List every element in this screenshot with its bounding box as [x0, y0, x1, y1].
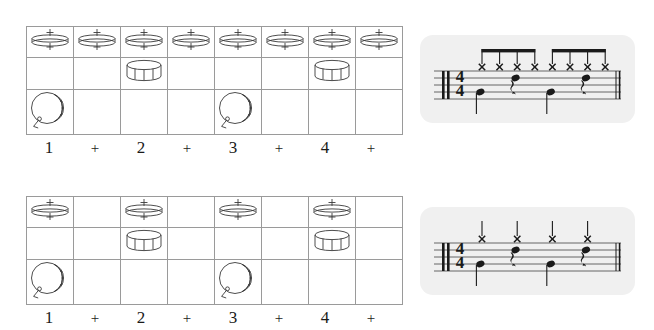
grid-row-bass [27, 90, 403, 135]
bass-drum-icon [217, 90, 259, 130]
grid-cell-snare-4a[interactable] [356, 228, 403, 260]
count-label: + [164, 137, 210, 159]
grid-cell-bass-2a[interactable] [168, 260, 215, 305]
grid-cell-snare-4[interactable] [309, 228, 356, 260]
grid-cell-snare-3[interactable] [215, 228, 262, 260]
hihat-cymbal-icon [122, 197, 166, 223]
grid-cell-hihat-2a[interactable] [168, 197, 215, 228]
grid-cell-hihat-4a[interactable] [356, 27, 403, 58]
grid-cell-snare-3a[interactable] [262, 228, 309, 260]
snare-drum-icon [124, 229, 164, 255]
hihat-cymbal-icon [263, 27, 307, 53]
grid-cell-bass-3a[interactable] [262, 90, 309, 135]
grid-cell-snare-3[interactable] [215, 58, 262, 90]
bass-drum-icon [29, 260, 71, 300]
count-row: 1 + 2 + 3 + 4 + [26, 137, 394, 159]
grid-cell-hihat-4[interactable] [309, 27, 356, 58]
grid-cell-hihat-3a[interactable] [262, 27, 309, 58]
grid-cell-hihat-1a[interactable] [74, 27, 121, 58]
grid-cell-snare-4[interactable] [309, 58, 356, 90]
count-label: + [72, 307, 118, 329]
hihat-cymbal-icon [310, 197, 354, 223]
drum-grid-table [26, 26, 403, 135]
grid-cell-bass-4a[interactable] [356, 90, 403, 135]
svg-text:4: 4 [456, 81, 465, 100]
grid-cell-bass-2a[interactable] [168, 90, 215, 135]
hihat-cymbal-icon [28, 27, 72, 53]
grid-cell-hihat-2a[interactable] [168, 27, 215, 58]
grid-cell-hihat-3[interactable] [215, 27, 262, 58]
grid-cell-hihat-4a[interactable] [356, 197, 403, 228]
count-label: 3 [210, 307, 256, 329]
hihat-cymbal-icon [216, 27, 260, 53]
drum-grid-exercise-2: 1 + 2 + 3 + 4 + [26, 196, 394, 329]
grid-cell-snare-1a[interactable] [74, 228, 121, 260]
grid-cell-bass-1a[interactable] [74, 90, 121, 135]
grid-cell-hihat-3a[interactable] [262, 197, 309, 228]
grid-cell-snare-2[interactable] [121, 58, 168, 90]
grid-row-bass [27, 260, 403, 305]
notation-panel-exercise-2: 44 [420, 207, 635, 295]
grid-cell-snare-2a[interactable] [168, 228, 215, 260]
grid-row-snare [27, 228, 403, 260]
count-label: + [72, 137, 118, 159]
grid-cell-bass-4a[interactable] [356, 260, 403, 305]
grid-cell-snare-1[interactable] [27, 228, 74, 260]
snare-drum-icon [312, 59, 352, 85]
count-label: 3 [210, 137, 256, 159]
snare-drum-icon [124, 59, 164, 85]
grid-cell-bass-2[interactable] [121, 90, 168, 135]
snare-drum-icon [312, 229, 352, 255]
count-label: 4 [302, 137, 348, 159]
hihat-cymbal-icon [310, 27, 354, 53]
grid-cell-hihat-2[interactable] [121, 197, 168, 228]
grid-cell-snare-1[interactable] [27, 58, 74, 90]
grid-cell-snare-1a[interactable] [74, 58, 121, 90]
grid-cell-snare-2a[interactable] [168, 58, 215, 90]
grid-cell-hihat-1a[interactable] [74, 197, 121, 228]
bass-drum-icon [29, 90, 71, 130]
grid-cell-snare-2[interactable] [121, 228, 168, 260]
hihat-cymbal-icon [169, 27, 213, 53]
drum-grid-exercise-1: 1 + 2 + 3 + 4 + [26, 26, 394, 159]
hihat-cymbal-icon [28, 197, 72, 223]
drum-grid-table [26, 196, 403, 305]
count-label: + [348, 137, 394, 159]
hihat-cymbal-icon [216, 197, 260, 223]
count-label: 1 [26, 307, 72, 329]
grid-cell-bass-4[interactable] [309, 90, 356, 135]
grid-cell-bass-1[interactable] [27, 90, 74, 135]
count-label: 2 [118, 307, 164, 329]
grid-cell-bass-1[interactable] [27, 260, 74, 305]
hihat-cymbal-icon [122, 27, 166, 53]
grid-cell-snare-3a[interactable] [262, 58, 309, 90]
grid-cell-hihat-1[interactable] [27, 197, 74, 228]
grid-cell-bass-3a[interactable] [262, 260, 309, 305]
count-label: + [348, 307, 394, 329]
count-row: 1 + 2 + 3 + 4 + [26, 307, 394, 329]
count-label: 2 [118, 137, 164, 159]
grid-cell-hihat-4[interactable] [309, 197, 356, 228]
grid-cell-bass-3[interactable] [215, 260, 262, 305]
count-label: + [164, 307, 210, 329]
grid-cell-bass-4[interactable] [309, 260, 356, 305]
grid-row-hihat [27, 197, 403, 228]
hihat-cymbal-icon [357, 27, 401, 53]
notation-panel-exercise-1: 44 [420, 35, 635, 123]
grid-row-hihat [27, 27, 403, 58]
hihat-cymbal-icon [75, 27, 119, 53]
count-label: + [256, 307, 302, 329]
grid-cell-bass-2[interactable] [121, 260, 168, 305]
bass-drum-icon [217, 260, 259, 300]
grid-cell-hihat-1[interactable] [27, 27, 74, 58]
count-label: 1 [26, 137, 72, 159]
svg-text:4: 4 [456, 253, 465, 272]
grid-row-snare [27, 58, 403, 90]
grid-cell-hihat-2[interactable] [121, 27, 168, 58]
count-label: + [256, 137, 302, 159]
grid-cell-bass-1a[interactable] [74, 260, 121, 305]
grid-cell-bass-3[interactable] [215, 90, 262, 135]
grid-cell-snare-4a[interactable] [356, 58, 403, 90]
count-label: 4 [302, 307, 348, 329]
grid-cell-hihat-3[interactable] [215, 197, 262, 228]
